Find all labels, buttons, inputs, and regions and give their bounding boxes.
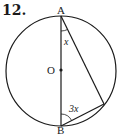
angle-label-3x: 3x [68, 103, 79, 114]
label-o: O [47, 64, 55, 76]
angle-arc-a [61, 30, 68, 32]
label-b: B [57, 124, 64, 134]
center-point [59, 68, 62, 71]
angle-arc-b [61, 114, 72, 121]
angle-label-x: x [63, 36, 69, 47]
label-a: A [57, 4, 65, 16]
circle-diagram: A B O x 3x [0, 0, 118, 134]
chord-bc [61, 104, 104, 126]
